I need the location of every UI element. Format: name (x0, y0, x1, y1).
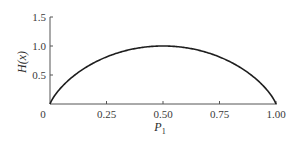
entropy-curve (50, 46, 276, 104)
x-tick-label: 0.75 (210, 108, 230, 120)
y-tick-label: 1.5 (32, 11, 46, 23)
entropy-chart: 0.51.01.5 00.250.500.751.00 H(x) P1 (0, 0, 297, 142)
x-axis: 00.250.500.751.00 (40, 101, 286, 120)
y-tick-label: 1.0 (32, 40, 46, 52)
y-tick-label: 0.5 (32, 69, 46, 81)
x-tick-label: 0 (40, 108, 46, 120)
y-axis-label: H(x) (15, 51, 29, 74)
x-axis-label: P1 (153, 120, 165, 136)
y-axis: 0.51.01.5 (32, 11, 53, 104)
x-tick-label: 0.25 (97, 108, 117, 120)
x-tick-label: 1.00 (266, 108, 286, 120)
x-tick-label: 0.50 (153, 108, 173, 120)
